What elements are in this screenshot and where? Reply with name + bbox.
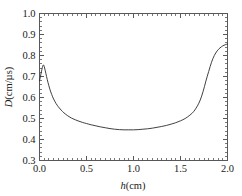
x-tick-label: 1.5 xyxy=(174,163,187,174)
x-tick-label: 1.0 xyxy=(127,163,140,174)
y-tick-label: 0.6 xyxy=(22,92,35,103)
x-tick-label: 2.0 xyxy=(221,163,234,174)
y-tick-label: 0.9 xyxy=(22,29,35,40)
x-axis-title: h(cm) xyxy=(120,180,146,192)
y-tick-label: 0.7 xyxy=(22,71,35,82)
y-tick-label: 0.5 xyxy=(22,113,35,124)
x-axis-title-rest: (cm) xyxy=(126,180,146,192)
y-tick-label: 1.0 xyxy=(22,8,35,19)
y-tick-label: 0.8 xyxy=(22,50,35,61)
svg-text:D(cm/µs): D(cm/µs) xyxy=(3,66,15,108)
svg-text:h(cm): h(cm) xyxy=(120,180,146,192)
line-chart: 0.00.51.01.52.0 0.30.40.50.60.70.80.91.0… xyxy=(0,0,242,196)
x-tick-label: 0.5 xyxy=(80,163,93,174)
y-axis-title: D(cm/µs) xyxy=(3,66,15,108)
chart-figure: 0.00.51.01.52.0 0.30.40.50.60.70.80.91.0… xyxy=(0,0,242,196)
y-tick-label: 0.4 xyxy=(22,134,36,145)
y-tick-label: 0.3 xyxy=(22,155,35,166)
y-axis-title-rest: (cm/µs) xyxy=(3,66,15,99)
